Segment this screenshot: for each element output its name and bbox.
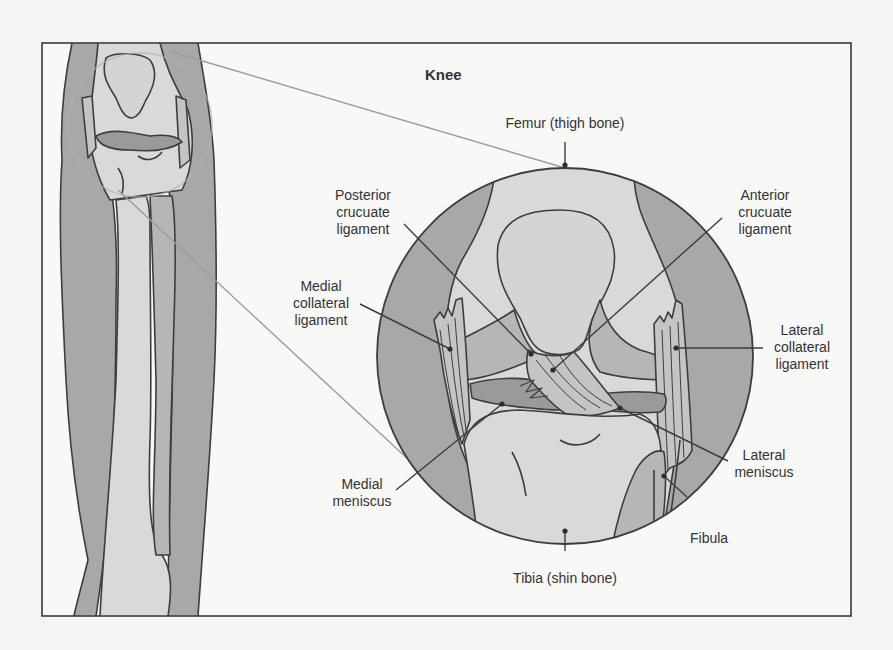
label-fibula: Fibula [690, 530, 728, 547]
label-anterior-cruciate-ligament: Anterior crucuate ligament [725, 187, 805, 238]
label-medial-collateral-ligament: Medial collateral ligament [282, 278, 360, 329]
label-lateral-collateral-ligament: Lateral collateral ligament [764, 322, 840, 373]
label-tibia: Tibia (shin bone) [495, 570, 635, 587]
label-lateral-meniscus: Lateral meniscus [727, 447, 801, 481]
knee-anatomy-figure [0, 0, 893, 650]
label-femur: Femur (thigh bone) [485, 115, 645, 132]
label-medial-meniscus: Medial meniscus [322, 476, 402, 510]
figure-title: Knee [425, 66, 462, 83]
label-posterior-cruciate-ligament: Posterior crucuate ligament [318, 187, 408, 238]
leg-overview [60, 43, 216, 616]
